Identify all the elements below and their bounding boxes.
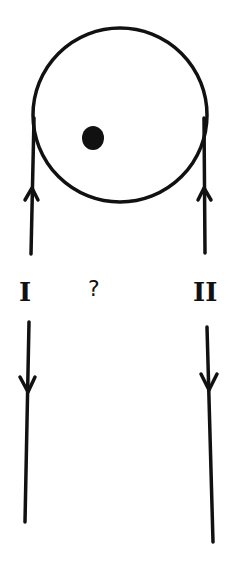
strand-II-upper — [204, 118, 205, 253]
strand-II-lower — [207, 327, 213, 542]
pulley-diagram: I ? II — [0, 0, 245, 570]
pulley-wheel — [33, 28, 207, 202]
axle-dot — [82, 126, 104, 150]
strand-I-lower — [25, 322, 29, 522]
label-strand-I: I — [19, 277, 31, 307]
strand-I-upper — [31, 118, 34, 254]
label-strand-II: II — [193, 277, 217, 307]
question-mark: ? — [88, 276, 100, 301]
